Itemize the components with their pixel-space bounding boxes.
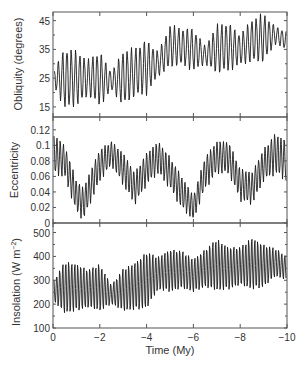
svg-text:25: 25 xyxy=(39,73,51,84)
svg-text:−4: −4 xyxy=(141,332,153,343)
svg-text:35: 35 xyxy=(39,44,51,55)
insolation-label-text: Insolation (W m xyxy=(10,250,22,326)
svg-text:45: 45 xyxy=(39,16,51,27)
svg-text:−2: −2 xyxy=(94,332,106,343)
svg-text:0.08: 0.08 xyxy=(31,156,51,167)
eccentricity-axis-label: Eccentricity xyxy=(8,141,20,198)
svg-text:−8: −8 xyxy=(234,332,246,343)
svg-text:200: 200 xyxy=(33,299,50,310)
svg-text:300: 300 xyxy=(33,275,50,286)
insolation-label-close: ) xyxy=(10,238,22,242)
svg-text:0.04: 0.04 xyxy=(31,187,51,198)
svg-text:500: 500 xyxy=(33,228,50,239)
obliquity-axis-label: Obliquity (degrees) xyxy=(12,18,24,111)
svg-text:0.12: 0.12 xyxy=(31,125,51,136)
eccentricity-panel: 00.020.040.060.080.10.12 Eccentricity xyxy=(8,117,287,229)
svg-text:400: 400 xyxy=(33,251,50,262)
insolation-axis-label: Insolation (W m−2) xyxy=(10,238,22,326)
svg-text:0.06: 0.06 xyxy=(31,171,51,182)
time-x-ticks: 0−2−4−6−8−10 xyxy=(50,332,296,343)
svg-text:100: 100 xyxy=(33,323,50,334)
paleoclimate-figure: 15253545 Obliquity (degrees) 00.020.040.… xyxy=(0,0,303,371)
eccentricity-curve xyxy=(54,134,286,218)
insolation-curve xyxy=(54,239,286,312)
svg-text:−10: −10 xyxy=(279,332,296,343)
time-axis-label: Time (My) xyxy=(145,344,194,356)
insolation-label-superscript: −2 xyxy=(10,242,17,250)
svg-text:0: 0 xyxy=(50,332,56,343)
insolation-panel: 100200300400500 Insolation (W m−2) xyxy=(10,223,287,334)
svg-text:0.02: 0.02 xyxy=(31,202,51,213)
obliquity-curve xyxy=(54,14,286,107)
svg-text:0.1: 0.1 xyxy=(36,140,50,151)
obliquity-panel: 15253545 Obliquity (degrees) xyxy=(12,12,287,117)
svg-text:−6: −6 xyxy=(188,332,200,343)
svg-text:15: 15 xyxy=(39,102,51,113)
